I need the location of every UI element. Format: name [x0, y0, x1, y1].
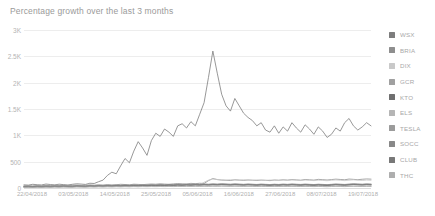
x-axis-tick-label: 14/05/2018: [100, 191, 130, 197]
legend-item-socc[interactable]: SOCC: [389, 136, 435, 152]
legend-swatch-icon: [389, 63, 395, 69]
x-axis-tick-label: 25/05/2018: [141, 191, 171, 197]
chart-widget: Percentage growth over the last 3 months…: [0, 0, 435, 216]
x-axis-tick-label: 22/04/2018: [17, 191, 47, 197]
legend-swatch-icon: [389, 110, 395, 116]
series-line-wsx: [24, 51, 371, 185]
gridline: [24, 188, 371, 189]
y-axis-tick-label: 1K: [13, 132, 21, 139]
plot-area: [24, 30, 371, 188]
x-axis-tick-label: 08/07/2018: [307, 191, 337, 197]
legend-item-label: GCR: [400, 78, 414, 85]
legend-item-kto[interactable]: KTO: [389, 89, 435, 105]
legend-item-label: KTO: [400, 94, 413, 101]
legend-swatch-icon: [389, 157, 395, 163]
legend-swatch-icon: [389, 125, 395, 131]
x-axis-tick-label: 16/06/2018: [224, 191, 254, 197]
y-axis-tick-label: 2K: [13, 79, 21, 86]
legend-item-wsx[interactable]: WSX: [389, 27, 435, 43]
y-axis-tick-label: 3K: [13, 27, 21, 34]
legend-item-label: ELS: [400, 109, 412, 116]
legend-item-els[interactable]: ELS: [389, 105, 435, 121]
legend-swatch-icon: [389, 79, 395, 85]
legend-item-label: DIX: [400, 62, 411, 69]
y-axis-labels: 05001K1.5K2K2.5K3K: [0, 30, 21, 188]
chart-legend: WSXBRIADIXGCRKTOELSTESLASOCCCLUBTHC: [389, 27, 435, 183]
series-lines: [24, 30, 371, 188]
x-axis-labels: 22/04/201803/05/201814/05/201825/05/2018…: [24, 191, 371, 205]
legend-item-gcr[interactable]: GCR: [389, 74, 435, 90]
x-axis-tick-label: 03/05/2018: [58, 191, 88, 197]
legend-swatch-icon: [389, 32, 395, 38]
x-axis-tick-label: 05/06/2018: [182, 191, 212, 197]
legend-item-tesla[interactable]: TESLA: [389, 121, 435, 137]
legend-item-label: TESLA: [400, 125, 421, 132]
legend-item-dix[interactable]: DIX: [389, 58, 435, 74]
legend-swatch-icon: [389, 141, 395, 147]
legend-swatch-icon: [389, 47, 395, 53]
chart-title: Percentage growth over the last 3 months: [10, 6, 173, 16]
legend-item-label: BRIA: [400, 47, 415, 54]
legend-swatch-icon: [389, 172, 395, 178]
legend-item-label: WSX: [400, 31, 415, 38]
y-axis-tick-label: 2.5K: [8, 53, 21, 60]
legend-item-label: SOCC: [400, 140, 419, 147]
legend-item-bria[interactable]: BRIA: [389, 43, 435, 59]
legend-swatch-icon: [389, 94, 395, 100]
x-axis-tick-label: 27/06/2018: [265, 191, 295, 197]
x-axis-tick-label: 19/07/2018: [348, 191, 378, 197]
legend-item-label: CLUB: [400, 156, 417, 163]
legend-item-thc[interactable]: THC: [389, 167, 435, 183]
y-axis-tick-label: 1.5K: [8, 106, 21, 113]
y-axis-tick-label: 500: [10, 158, 21, 165]
legend-item-label: THC: [400, 172, 413, 179]
legend-item-club[interactable]: CLUB: [389, 152, 435, 168]
